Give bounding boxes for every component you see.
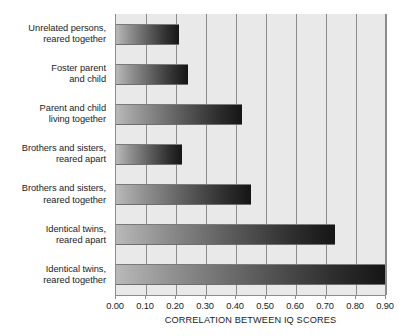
tick-mark bbox=[175, 295, 176, 299]
x-axis-tick-marks bbox=[115, 295, 386, 299]
category-label: Identical twins,reared together bbox=[0, 255, 110, 295]
category-axis-labels: Unrelated persons,reared togetherFoster … bbox=[0, 14, 110, 295]
category-label-line: and child bbox=[69, 74, 106, 85]
tick-mark bbox=[235, 295, 236, 299]
tick-mark bbox=[385, 295, 386, 299]
category-label-line: reared together bbox=[43, 275, 106, 286]
category-label-line: Brothers and sisters, bbox=[22, 143, 106, 154]
tick-mark bbox=[295, 295, 296, 299]
bar-slot bbox=[116, 94, 385, 134]
bar bbox=[116, 24, 179, 45]
bar bbox=[116, 184, 251, 205]
bar bbox=[116, 64, 188, 85]
bar bbox=[116, 264, 385, 285]
bar-slot bbox=[116, 134, 385, 174]
category-label-line: reared together bbox=[43, 34, 106, 45]
bar-slot bbox=[116, 175, 385, 215]
iq-correlation-bar-chart: Unrelated persons,reared togetherFoster … bbox=[0, 0, 411, 336]
tick-mark bbox=[145, 295, 146, 299]
category-label-line: Identical twins, bbox=[46, 224, 106, 235]
category-label-line: reared apart bbox=[56, 235, 106, 246]
bar bbox=[116, 144, 182, 165]
bar-slot bbox=[116, 215, 385, 255]
category-label-line: reared together bbox=[43, 195, 106, 206]
category-label-line: Unrelated persons, bbox=[28, 23, 106, 34]
tick-mark bbox=[265, 295, 266, 299]
gridline bbox=[386, 14, 387, 295]
category-label-line: Foster parent bbox=[51, 63, 106, 74]
tick-mark bbox=[325, 295, 326, 299]
category-label: Brothers and sisters,reared together bbox=[0, 175, 110, 215]
bar bbox=[116, 104, 242, 125]
category-label: Parent and childliving together bbox=[0, 94, 110, 134]
x-axis-tick-labels: 0.000.100.200.300.400.500.600.700.800.90 bbox=[0, 301, 411, 314]
bar-slot bbox=[116, 14, 385, 54]
bar bbox=[116, 224, 335, 245]
category-label-line: living together bbox=[49, 114, 106, 125]
category-label: Foster parentand child bbox=[0, 54, 110, 94]
bar-slot bbox=[116, 255, 385, 295]
category-label: Unrelated persons,reared together bbox=[0, 14, 110, 54]
tick-mark bbox=[205, 295, 206, 299]
bars-layer bbox=[116, 14, 385, 295]
category-label-line: Brothers and sisters, bbox=[22, 183, 106, 194]
tick-mark bbox=[115, 295, 116, 299]
bar-slot bbox=[116, 54, 385, 94]
plot-area bbox=[115, 14, 386, 295]
tick-label: 0.90 bbox=[365, 301, 405, 311]
category-label-line: Parent and child bbox=[40, 103, 106, 114]
tick-mark bbox=[355, 295, 356, 299]
x-axis-title: CORRELATION BETWEEN IQ SCORES bbox=[115, 315, 386, 325]
category-label-line: reared apart bbox=[56, 154, 106, 165]
category-label-line: Identical twins, bbox=[46, 264, 106, 275]
category-label: Identical twins,reared apart bbox=[0, 215, 110, 255]
category-label: Brothers and sisters,reared apart bbox=[0, 134, 110, 174]
